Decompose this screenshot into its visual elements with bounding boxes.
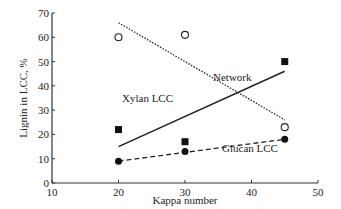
y-tick-label: 60 [38,31,50,43]
y-tick-label: 20 [38,128,50,140]
data-point [182,148,189,155]
chart: 1020304050010203040506070 NetworkXylan L… [0,0,341,209]
x-tick-label: 40 [246,186,258,198]
series-label: Network [213,71,252,83]
x-axis-label: Kappa number [152,194,217,206]
data-point [115,34,122,41]
y-tick-label: 0 [44,177,50,189]
y-tick-label: 50 [38,56,50,68]
data-point [281,136,288,143]
fit-line [119,23,285,120]
y-tick-label: 10 [38,153,50,165]
y-tick-label: 70 [38,7,50,19]
x-tick-label: 20 [113,186,125,198]
series-label: Xylan LCC [122,92,173,104]
data-point [182,31,189,38]
y-tick-label: 30 [38,104,50,116]
data-point [115,126,122,133]
fit-line [119,71,285,146]
y-tick-label: 40 [38,80,50,92]
data-point [281,58,288,65]
data-point [182,138,189,145]
y-axis-label: Lignin in LCC, % [17,58,29,137]
data-point [115,158,122,165]
data-point [281,124,288,131]
x-tick-label: 50 [313,186,325,198]
series-label: Glucan LCC [222,142,278,154]
